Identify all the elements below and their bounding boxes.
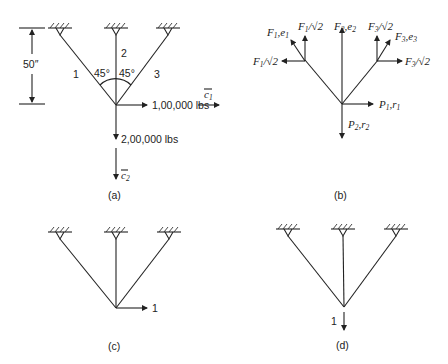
- support-icon: [156, 23, 180, 35]
- f2-label: F2,e2: [333, 20, 356, 34]
- panel-c: 1 (c): [48, 227, 181, 352]
- p1-label: P1,r1: [378, 98, 400, 112]
- caption-a: (a): [108, 189, 121, 201]
- f3-resultant-label: F3,e3: [394, 30, 417, 44]
- angle-label-right: 45°: [119, 67, 135, 79]
- unit-load-label: 1: [152, 302, 158, 314]
- member-label-2: 2: [121, 47, 127, 59]
- member-1: [60, 239, 116, 308]
- angle-label-left: 45°: [94, 67, 110, 79]
- member-label-1: 1: [73, 68, 79, 80]
- support-icon: [104, 227, 128, 239]
- support-icon: [48, 227, 72, 239]
- f3-resultant-arrow: [377, 40, 390, 61]
- support-icon: [276, 224, 300, 236]
- support-icon: [331, 224, 355, 236]
- member-1: [305, 60, 342, 104]
- member-3: [344, 236, 396, 307]
- support-icon: [157, 227, 181, 239]
- support-icon: [384, 224, 408, 236]
- support-icon: [104, 23, 128, 35]
- vertical-load-label: 2,00,000 lbs: [121, 133, 178, 145]
- f1-vertical-label: F1/√2: [297, 20, 324, 34]
- panel-d: 1 (d): [276, 224, 408, 351]
- unit-load-label: 1: [331, 315, 337, 327]
- member-3: [342, 60, 378, 104]
- member-1: [288, 236, 344, 307]
- f1-resultant-arrow: [291, 40, 305, 61]
- panel-a: 50″ 1 2 3 45° 45° 1,00,000 lbs 2,00,000 …: [19, 23, 219, 201]
- panel-b: F1/√2 F1/√2 F1,e1 F2,e2 F3/√2 F3,e3 F3/√…: [252, 20, 431, 201]
- c1-label: c1: [204, 88, 213, 102]
- c2-label: c2: [121, 169, 130, 183]
- p2-label: P2,r2: [347, 118, 370, 132]
- member-label-3: 3: [154, 68, 160, 80]
- f3-vertical-label: F3/√2: [367, 20, 394, 34]
- truss-figure: 50″ 1 2 3 45° 45° 1,00,000 lbs 2,00,000 …: [0, 0, 448, 364]
- f1-resultant-label: F1,e1: [266, 26, 289, 40]
- dimension-label: 50″: [23, 58, 39, 70]
- f1-horizontal-label: F1/√2: [252, 55, 279, 69]
- caption-b: (b): [334, 189, 347, 201]
- member-3: [116, 239, 169, 308]
- caption-c: (c): [108, 340, 120, 352]
- member-2: [343, 236, 344, 307]
- f3-horizontal-label: F3/√2: [404, 55, 431, 69]
- caption-d: (d): [336, 339, 349, 351]
- support-icon: [48, 23, 72, 35]
